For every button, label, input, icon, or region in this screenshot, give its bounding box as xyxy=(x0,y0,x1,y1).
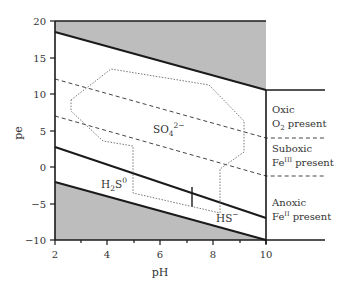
suboxic-title: Suboxic xyxy=(272,143,313,154)
anoxic-subtitle: FeII present xyxy=(272,210,331,222)
suboxic-zone-label: Suboxic FeIII present xyxy=(272,143,334,168)
x-tick-label: 6 xyxy=(157,249,163,260)
y-tick-label: −5 xyxy=(31,199,46,210)
x-tick-label: 8 xyxy=(210,249,216,260)
y-tick-label: 20 xyxy=(33,16,46,27)
y-axis-title: pe xyxy=(12,126,25,140)
oxic-title: Oxic xyxy=(272,104,295,115)
upper-shaded-region xyxy=(55,21,266,90)
oxic-zone-label: Oxic O2 present xyxy=(272,104,326,132)
y-tick-labels: 20 15 10 5 0 −5 −10 xyxy=(25,16,46,246)
x-tick-label: 10 xyxy=(260,249,273,260)
hs-label: HS− xyxy=(216,210,239,224)
suboxic-subtitle: FeIII present xyxy=(272,156,334,168)
x-tick-labels: 2 4 6 8 10 xyxy=(52,249,273,260)
x-tick-label: 2 xyxy=(52,249,58,260)
sulfate-label: SO42− xyxy=(153,121,185,138)
y-tick-label: 0 xyxy=(40,162,46,173)
y-tick-label: −10 xyxy=(25,235,46,246)
oxic-subtitle: O2 present xyxy=(272,118,326,132)
x-axis-title: pH xyxy=(152,266,169,279)
anoxic-title: Anoxic xyxy=(271,197,307,208)
anoxic-zone-label: Anoxic FeII present xyxy=(271,197,331,222)
y-tick-label: 5 xyxy=(40,126,46,137)
h2s-label: H2S0 xyxy=(101,176,127,193)
y-tick-label: 10 xyxy=(33,89,46,100)
eh-ph-diagram: 20 15 10 5 0 −5 −10 2 4 6 8 10 pH pe SO4… xyxy=(0,0,342,293)
x-tick-label: 4 xyxy=(104,249,110,260)
y-tick-label: 15 xyxy=(33,53,46,64)
